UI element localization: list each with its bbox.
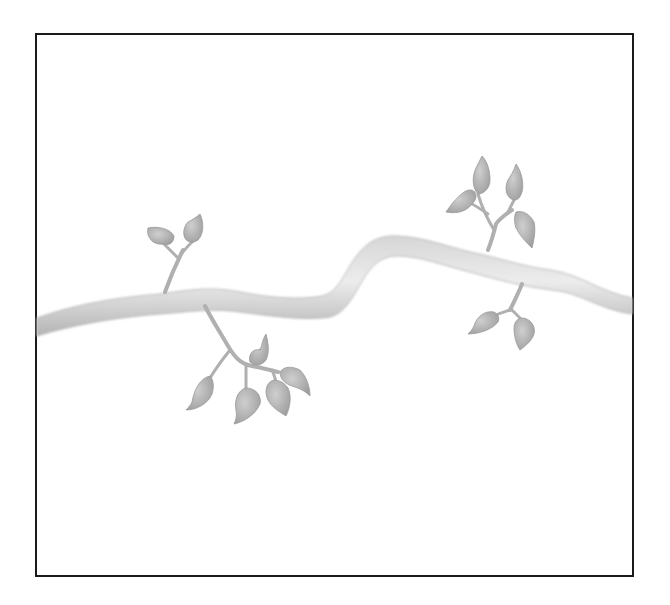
branch-illustration: [0, 0, 670, 605]
leaf: [186, 376, 213, 410]
leaf: [148, 227, 174, 244]
leaf: [234, 388, 260, 424]
leaf: [468, 312, 499, 334]
leaf: [184, 214, 203, 242]
leaf: [506, 164, 523, 200]
leaf: [446, 190, 476, 213]
main-branch: [37, 236, 632, 336]
leaf-cluster-lower-center: [186, 306, 310, 424]
leaf: [473, 156, 490, 194]
leaf: [266, 380, 290, 416]
leaf-cluster-lower-right: [468, 284, 534, 350]
leaf-cluster-upper-right: [446, 156, 535, 250]
leaf: [249, 334, 268, 365]
leaf: [514, 318, 534, 350]
leaf-cluster-upper-left: [148, 214, 203, 292]
leaf: [515, 211, 535, 248]
